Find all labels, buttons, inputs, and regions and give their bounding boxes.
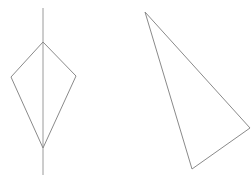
geometry-drawing-svg: [0, 0, 251, 182]
figure-canvas: [0, 0, 251, 182]
scalene-triangle-shape: [145, 12, 250, 169]
